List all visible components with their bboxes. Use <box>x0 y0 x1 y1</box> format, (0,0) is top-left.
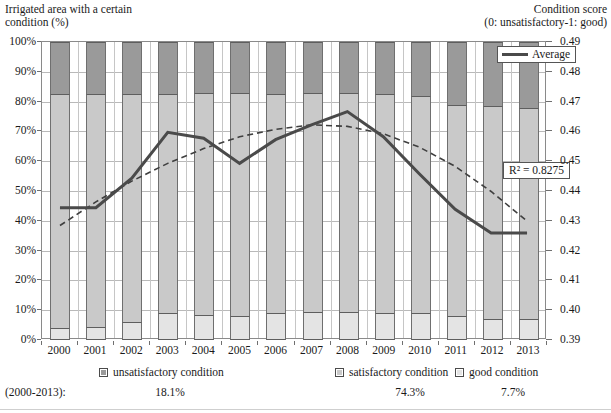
x-axis-tick-mark <box>546 341 547 345</box>
x-axis-tick-mark <box>41 341 42 345</box>
y2-axis-tick-mark <box>546 190 552 191</box>
y2-axis-tick-mark <box>546 279 552 280</box>
y-axis-tick-label: 70% <box>3 124 41 136</box>
y2-axis-tick-label: 0.42 <box>546 244 608 256</box>
y-axis-tick-label: 60% <box>3 154 41 166</box>
x-axis-tick-label: 2005 <box>219 344 259 356</box>
legend-swatch <box>335 368 344 377</box>
x-axis-tick-mark <box>185 341 186 345</box>
period-label: (2000-2013): <box>5 386 66 398</box>
y-axis-tick-label: 30% <box>3 244 41 256</box>
legend-item: satisfactory condition <box>335 366 448 378</box>
y2-axis-tick-mark <box>546 101 552 102</box>
legend-item: good condition <box>455 366 538 378</box>
x-axis-tick-mark <box>149 341 150 345</box>
legend: unsatisfactory conditionsatisfactory con… <box>0 366 611 386</box>
y2-axis-tick-label: 0.40 <box>546 303 608 315</box>
average-line <box>60 112 527 233</box>
x-axis-tick-label: 2011 <box>436 344 476 356</box>
x-axis-tick-label: 2008 <box>328 344 368 356</box>
x-axis-tick-mark <box>366 341 367 345</box>
x-axis-tick-label: 2009 <box>364 344 404 356</box>
y-axis-tick-label: 10% <box>3 303 41 315</box>
legend-label: satisfactory condition <box>349 366 448 378</box>
y2-axis-tick-mark <box>546 339 552 340</box>
legend-swatch <box>455 368 464 377</box>
x-axis-tick-label: 2007 <box>292 344 332 356</box>
x-axis-tick-mark <box>77 341 78 345</box>
x-axis-tick-mark <box>438 341 439 345</box>
x-axis-tick-mark <box>257 341 258 345</box>
x-axis-tick-label: 2002 <box>111 344 151 356</box>
x-axis-tick-label: 2010 <box>400 344 440 356</box>
period-average-unsatisfactory: 18.1% <box>130 386 210 398</box>
x-axis-tick-mark <box>294 341 295 345</box>
x-axis-tick-label: 2004 <box>183 344 223 356</box>
legend-swatch-fill <box>456 369 463 376</box>
y-axis-tick-mark <box>37 339 41 340</box>
x-axis-tick-mark <box>402 341 403 345</box>
x-axis-tick-mark <box>510 341 511 345</box>
plot-area <box>41 41 546 339</box>
y2-axis-tick-label: 0.44 <box>546 184 608 196</box>
bottom-divider <box>0 409 611 410</box>
x-axis-tick-label: 2006 <box>255 344 295 356</box>
y-axis-tick-label: 100% <box>3 35 41 47</box>
y-axis-tick-label: 40% <box>3 214 41 226</box>
legend-item: unsatisfactory condition <box>99 366 224 378</box>
x-axis-tick-label: 2013 <box>508 344 548 356</box>
line-series-overlay <box>42 42 545 338</box>
y2-axis-tick-mark <box>546 160 552 161</box>
x-axis-tick-label: 2000 <box>39 344 79 356</box>
y2-axis-tick-label: 0.49 <box>546 35 608 47</box>
legend-swatch <box>99 368 108 377</box>
left-axis: 0%10%20%30%40%50%60%70%80%90%100% <box>0 41 41 339</box>
y-axis-tick-label: 90% <box>3 65 41 77</box>
y2-axis-tick-label: 0.48 <box>546 65 608 77</box>
y2-axis-tick-mark <box>546 250 552 251</box>
y2-axis-tick-mark <box>546 309 552 310</box>
y2-axis-tick-label: 0.39 <box>546 333 608 345</box>
y2-axis-tick-label: 0.46 <box>546 124 608 136</box>
y-axis-tick-label: 0% <box>3 333 41 345</box>
y2-axis-tick-label: 0.47 <box>546 95 608 107</box>
chart-root: Irrigated area with a certain condition … <box>0 0 611 413</box>
y2-axis-tick-mark <box>546 220 552 221</box>
x-axis-tick-mark <box>221 341 222 345</box>
x-axis-tick-mark <box>474 341 475 345</box>
right-axis: 0.390.400.410.420.430.440.450.460.470.48… <box>546 41 611 339</box>
x-axis-tick-label: 2001 <box>75 344 115 356</box>
legend-label: good condition <box>469 366 538 378</box>
period-average-satisfactory: 74.3% <box>370 386 450 398</box>
legend-label: unsatisfactory condition <box>113 366 224 378</box>
period-average-row: (2000-2013): 18.1%74.3%7.7% <box>0 386 611 406</box>
y2-axis-tick-mark <box>546 41 552 42</box>
right-axis-title: Condition score (0: unsatisfactory-1: go… <box>484 3 607 28</box>
y-axis-tick-label: 80% <box>3 95 41 107</box>
left-axis-title: Irrigated area with a certain condition … <box>5 3 132 28</box>
y2-axis-tick-label: 0.45 <box>546 154 608 166</box>
y-axis-tick-label: 20% <box>3 273 41 285</box>
legend-swatch-fill <box>100 369 107 376</box>
x-axis-tick-mark <box>113 341 114 345</box>
y-axis-tick-label: 50% <box>3 184 41 196</box>
x-axis-tick-mark <box>330 341 331 345</box>
y2-axis-tick-label: 0.43 <box>546 214 608 226</box>
y2-axis-tick-mark <box>546 71 552 72</box>
period-average-good: 7.7% <box>473 386 553 398</box>
x-axis: 2000200120022003200420052006200720082009… <box>41 341 546 361</box>
y2-axis-tick-mark <box>546 130 552 131</box>
y2-axis-tick-label: 0.41 <box>546 273 608 285</box>
legend-swatch-fill <box>336 369 343 376</box>
x-axis-tick-label: 2012 <box>472 344 512 356</box>
average-line-swatch <box>502 53 528 56</box>
x-axis-tick-label: 2003 <box>147 344 187 356</box>
